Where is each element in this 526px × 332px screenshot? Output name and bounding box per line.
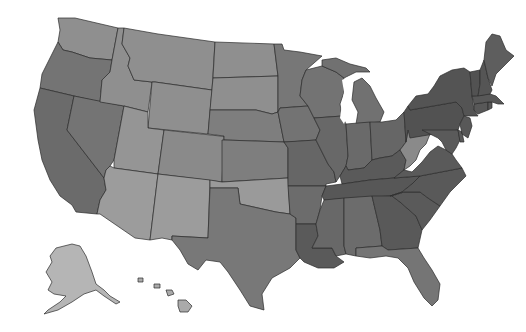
state-colorado[interactable]: [158, 130, 224, 182]
state-hawaii-maui[interactable]: [166, 290, 174, 296]
state-north-dakota[interactable]: [213, 42, 278, 78]
state-hawaii[interactable]: [178, 300, 192, 312]
state-alaska[interactable]: [44, 244, 120, 314]
state-kansas[interactable]: [222, 140, 288, 182]
map-canvas: [0, 0, 526, 332]
state-michigan-lower-peninsula[interactable]: [352, 78, 384, 124]
state-rhode-island[interactable]: [488, 102, 492, 110]
us-choropleth-map: [0, 0, 526, 332]
state-florida[interactable]: [356, 246, 440, 306]
state-hawaii-oahu[interactable]: [154, 284, 160, 288]
state-arizona[interactable]: [97, 166, 158, 240]
state-indiana[interactable]: [346, 122, 372, 170]
state-new-mexico[interactable]: [150, 174, 210, 240]
state-south-dakota[interactable]: [210, 76, 278, 114]
state-wyoming[interactable]: [148, 82, 212, 134]
state-maine[interactable]: [484, 34, 514, 86]
state-hawaii-kauai[interactable]: [138, 278, 143, 282]
